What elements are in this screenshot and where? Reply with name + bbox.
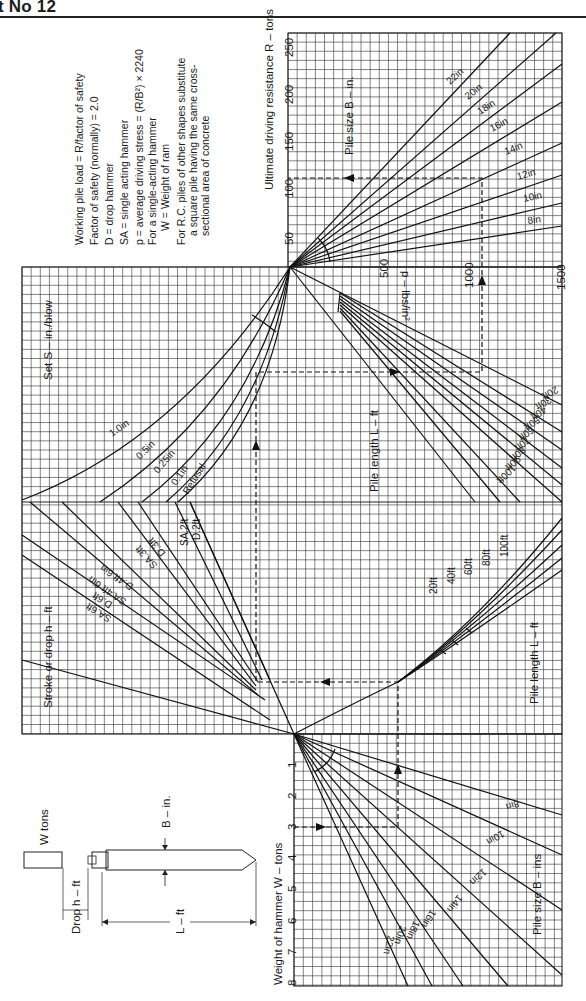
label-set: Set S – in./blow <box>42 299 54 380</box>
chart-labels: Ultimate driving resistance R – tons 50 … <box>42 9 567 986</box>
pile-shape-icon <box>106 850 256 870</box>
tick-r-50: 50 <box>283 232 295 245</box>
svg-text:B – in.: B – in. <box>160 795 172 828</box>
svg-text:5: 5 <box>286 886 298 892</box>
svg-text:4: 4 <box>286 854 298 861</box>
tick-p-500: 500 <box>378 259 390 278</box>
note-line: p = average driving stress = (R/B²) × 22… <box>133 49 145 245</box>
svg-text:10in: 10in <box>485 828 507 847</box>
note-line: sectional area of concrete <box>199 116 211 236</box>
svg-text:60ft: 60ft <box>463 558 474 575</box>
svg-text:L – ft: L – ft <box>174 908 186 934</box>
svg-text:W tons: W tons <box>38 809 50 845</box>
svg-text:1.0in: 1.0in <box>107 417 131 438</box>
svg-text:8in: 8in <box>505 798 521 812</box>
label-pile-length-upper: Pile length L – ft <box>368 409 380 492</box>
svg-text:40ft: 40ft <box>446 567 457 584</box>
label-stroke: Stroke or drop h – ft <box>42 606 54 708</box>
pile-sketch: W tons B – in. Drop h – ft L – ft <box>24 795 256 934</box>
grid-hammer-weight <box>294 734 562 986</box>
label-pile-size-upper: Pile size B – in. <box>343 76 355 155</box>
svg-text:6: 6 <box>286 918 298 924</box>
tick-r-200: 200 <box>283 85 295 104</box>
pile-length-upper-curves <box>290 267 562 502</box>
stroke-curves <box>22 502 294 734</box>
note-line: W = Weight of ram <box>159 144 171 231</box>
label-pile-size-lower: Pile size B – ins <box>531 854 543 935</box>
note-line: D = drop hammer <box>103 163 115 245</box>
axis-label-hammer-weight: Weight of hammer W – tons <box>272 842 284 985</box>
svg-text:20ft: 20ft <box>428 577 439 594</box>
note-line: For a single-acting hammer <box>146 117 158 245</box>
svg-text:8: 8 <box>286 980 298 986</box>
axis-label-ultimate-resistance: Ultimate driving resistance R – tons <box>263 9 275 190</box>
svg-text:14in: 14in <box>445 893 465 915</box>
svg-text:22in: 22in <box>381 935 396 956</box>
svg-text:14in: 14in <box>503 140 525 157</box>
tick-r-100: 100 <box>283 179 295 198</box>
tick-r-250: 250 <box>283 38 295 57</box>
svg-text:100ft: 100ft <box>499 535 510 557</box>
note-line: a square pile having the same cross- <box>187 64 199 236</box>
note-line: For R.C. piles of other shapes substitut… <box>175 58 187 245</box>
label-pile-length-lower: Pile length L – ft <box>528 621 540 704</box>
nomogram-chart: Ultimate driving resistance R – tons 50 … <box>0 0 586 1001</box>
note-line: Working pile load = R/factor of safety <box>73 73 85 245</box>
hammer-block-icon <box>24 852 62 868</box>
svg-text:D.2ft: D.2ft <box>191 519 202 540</box>
tick-p-1500: 1500 <box>555 264 567 290</box>
svg-text:16in: 16in <box>488 115 510 134</box>
svg-text:7: 7 <box>286 949 298 955</box>
svg-text:12in: 12in <box>516 166 537 182</box>
svg-text:1: 1 <box>286 762 298 768</box>
svg-text:18in: 18in <box>475 97 497 117</box>
svg-text:Drop h – ft: Drop h – ft <box>70 880 82 934</box>
svg-text:80ft: 80ft <box>481 549 492 566</box>
svg-text:8in: 8in <box>527 213 542 226</box>
svg-text:2: 2 <box>286 793 298 799</box>
svg-text:SA.2ft: SA.2ft <box>179 519 190 546</box>
tick-p-1000: 1000 <box>463 262 475 288</box>
svg-text:3: 3 <box>286 824 298 830</box>
svg-text:16in: 16in <box>419 908 438 930</box>
axis-label-driving-stress: p – lbs/in² <box>400 271 412 321</box>
note-line: SA = single acting hammer <box>118 119 130 245</box>
note-line: Factor of safety (normally) = 2.0 <box>88 96 100 245</box>
svg-text:0.25in: 0.25in <box>151 447 177 475</box>
tick-r-150: 150 <box>283 132 295 151</box>
